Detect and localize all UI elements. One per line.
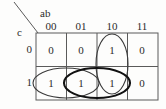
kmap-cell-r1-c1: 1: [66, 77, 96, 89]
kmap-cell-r0-c2: 1: [97, 44, 127, 56]
row-variable-label: c: [17, 27, 22, 38]
kmap-cell-r0-c1: 0: [66, 44, 96, 56]
column-header-1: 01: [66, 21, 96, 32]
col-variable-label: ab: [40, 8, 51, 19]
column-header-0: 00: [36, 21, 66, 32]
column-header-2: 10: [97, 21, 127, 32]
row-header-1: 1: [16, 77, 32, 88]
kmap-cell-r1-c2: 1: [97, 77, 127, 89]
column-header-3: 11: [127, 21, 157, 32]
kmap-cell-r0-c3: 0: [127, 44, 157, 56]
kmap-cell-r0-c0: 0: [36, 44, 66, 56]
row-header-0: 0: [16, 44, 32, 55]
kmap-cell-r1-c3: 0: [127, 77, 157, 89]
karnaugh-map-figure: ab c 00 01 10 11 0 1 0 0 1 0 1 1 1 0: [0, 0, 166, 109]
kmap-cell-r1-c0: 1: [36, 77, 66, 89]
